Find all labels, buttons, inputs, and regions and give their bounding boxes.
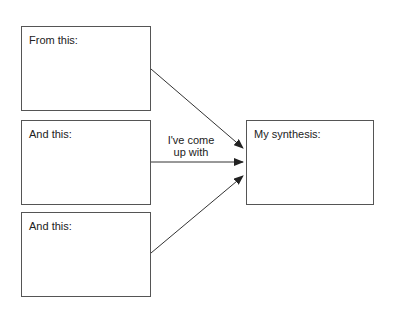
arrow-caption-line-2: up with xyxy=(156,146,226,158)
arrow-caption-line-1: I've come xyxy=(156,134,226,146)
arrow-from-box-3 xyxy=(151,176,243,253)
arrow-caption: I've come up with xyxy=(156,134,226,158)
